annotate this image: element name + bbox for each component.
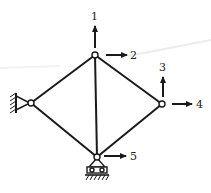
node-left [28,100,34,106]
truss-members [31,55,162,157]
dof-label-1: 1 [91,10,98,23]
truss-diagram: 1 2 3 4 5 [0,0,211,193]
member-top-bottom [95,55,97,157]
node-top [92,52,98,58]
dof-labels: 1 2 3 4 5 [91,10,203,163]
roller-support-icon [85,158,109,180]
node-bottom [94,154,100,160]
member-top-right [95,55,162,104]
member-bottom-left [31,103,97,157]
dof-label-2: 2 [130,49,137,62]
pin-support-icon [10,93,30,113]
member-left-top [31,55,95,103]
dof-label-4: 4 [196,98,203,111]
dof-label-3: 3 [159,61,166,74]
dof-label-5: 5 [130,150,137,163]
node-right [159,101,165,107]
